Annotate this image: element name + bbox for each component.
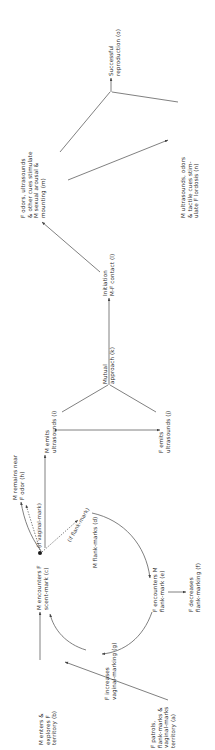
node-n-line-0: M ultrasounds, odors xyxy=(180,157,187,218)
node-o-successful-reproduction: Successful reproduction (o) xyxy=(108,29,121,76)
edge-n-to-o xyxy=(112,92,178,102)
node-o-line-0: Successful xyxy=(108,29,115,76)
node-g-line-0: F increases xyxy=(104,643,111,700)
node-j-f-emits-ultrasounds: F emits ultrasounds (j) xyxy=(158,411,171,453)
node-k-line-1: approach (k) xyxy=(109,347,116,384)
edge-m-to-o xyxy=(60,92,110,152)
node-n-line-1: & tactile cues stim- xyxy=(187,157,194,218)
node-m-line-2: M sexual arousal & xyxy=(33,152,40,219)
node-k-mutual-approach: Mutual approach (k) xyxy=(102,347,115,384)
node-f-f-decreases-flank-marking: F decreases flank-marking (f) xyxy=(188,563,201,612)
edge-g-to-c xyxy=(50,614,86,650)
node-e-f-encounters-flank-mark: F encounters M flank-mark (e) xyxy=(152,567,165,612)
node-i-line-1: ultrasounds (i) xyxy=(51,411,58,453)
node-d-m-flank-marks: M flank-marks (d) xyxy=(92,517,99,568)
node-g-line-1: vaginal-marking (g) xyxy=(111,643,118,700)
node-b-line-2: territory (b) xyxy=(51,711,58,745)
node-c-line-1: scent-mark (c) xyxy=(43,565,50,610)
node-n-m-ultrasounds-lordosis: M ultrasounds, odors & tactile cues stim… xyxy=(180,157,200,218)
node-c-line-0: M encounters F xyxy=(36,565,43,610)
node-l-line-0: Initiation xyxy=(102,254,109,296)
node-e-line-1: flank-mark (e) xyxy=(159,567,166,612)
edge-d-to-e xyxy=(92,513,150,578)
node-d-line-0: M flank-marks (d) xyxy=(92,517,99,568)
node-a-f-patrols-marks-territory: F patrols, flank-marks & vaginal-marks t… xyxy=(150,707,176,748)
node-h-line-1: F odor (h) xyxy=(19,455,26,500)
node-j-line-1: ultrasounds (j) xyxy=(165,411,172,453)
node-e-line-0: F encounters M xyxy=(152,567,159,612)
edge-i-to-k xyxy=(62,385,108,412)
node-h-m-remains-near-f-odor: M remains near F odor (h) xyxy=(12,455,25,500)
node-n-line-2: ulate F lordosis (n) xyxy=(193,157,200,218)
edge-j-to-k xyxy=(110,385,156,412)
node-i-line-0: M emits xyxy=(44,411,51,453)
node-l-initiation-contact: Initiation M-F contact (l) xyxy=(102,254,115,296)
node-h-line-0: M remains near xyxy=(12,455,19,500)
edge-l-to-m xyxy=(42,222,100,272)
node-l-line-1: M-F contact (l) xyxy=(109,254,116,296)
node-b-line-1: explores F xyxy=(45,711,52,745)
node-f-line-1: flank-marking (f) xyxy=(195,563,202,612)
condition-label-if-vaginal-mark: (if vaginal-mark) xyxy=(36,503,42,548)
node-k-line-0: Mutual xyxy=(102,347,109,384)
node-o-line-1: reproduction (o) xyxy=(115,29,122,76)
edge-m-to-n xyxy=(68,140,168,180)
node-i-m-emits-ultrasounds: M emits ultrasounds (i) xyxy=(44,411,57,453)
node-a-line-0: F patrols, xyxy=(150,707,157,748)
node-b-line-0: M enters & xyxy=(38,711,45,745)
node-a-line-2: vaginal-marks xyxy=(163,707,170,748)
node-j-line-0: F emits xyxy=(158,411,165,453)
node-b-m-enters-explores: M enters & explores F territory (b) xyxy=(38,711,58,745)
node-a-line-1: flank-marks & xyxy=(157,707,164,748)
flow-diagram: Successful reproduction (o) F odors, ult… xyxy=(0,0,215,750)
node-c-m-encounters-scent-mark: M encounters F scent-mark (c) xyxy=(36,565,49,610)
node-a-line-3: territory (a) xyxy=(170,707,177,748)
junction-dot-c xyxy=(38,551,42,555)
node-m-line-1: & other cues stimulate xyxy=(27,152,34,219)
node-m-line-0: F odors, ultrasounds xyxy=(20,152,27,219)
node-m-f-odors-stimulate: F odors, ultrasounds & other cues stimul… xyxy=(20,152,46,219)
node-g-f-increases-vaginal-marking: F increases vaginal-marking (g) xyxy=(104,643,117,700)
node-m-line-3: mounting (m) xyxy=(40,152,47,219)
node-f-line-0: F decreases xyxy=(188,563,195,612)
